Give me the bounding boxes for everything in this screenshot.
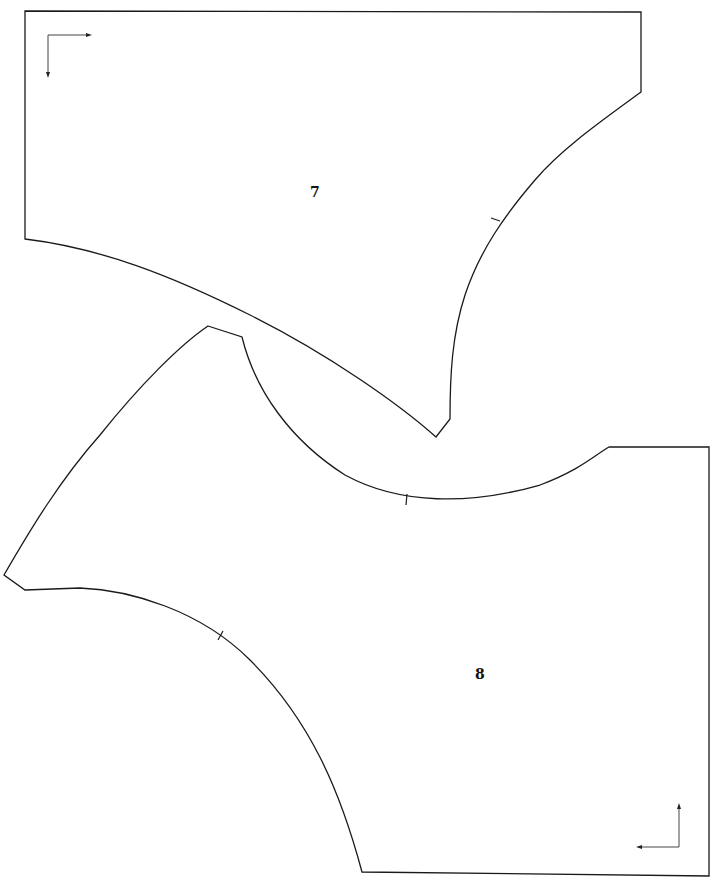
piece-7-outline bbox=[25, 11, 641, 437]
pattern-piece-7 bbox=[25, 11, 641, 437]
grainline-arrow-icon bbox=[636, 803, 681, 849]
piece-8-outline bbox=[4, 326, 709, 876]
piece-7-notch bbox=[491, 218, 500, 221]
piece-8-label: 8 bbox=[475, 666, 485, 682]
pattern-sheet bbox=[0, 0, 719, 885]
pattern-piece-8 bbox=[4, 326, 709, 876]
grainline-arrow-icon bbox=[46, 33, 92, 78]
piece-8-notch-left bbox=[218, 631, 223, 640]
piece-7-label: 7 bbox=[310, 184, 320, 200]
